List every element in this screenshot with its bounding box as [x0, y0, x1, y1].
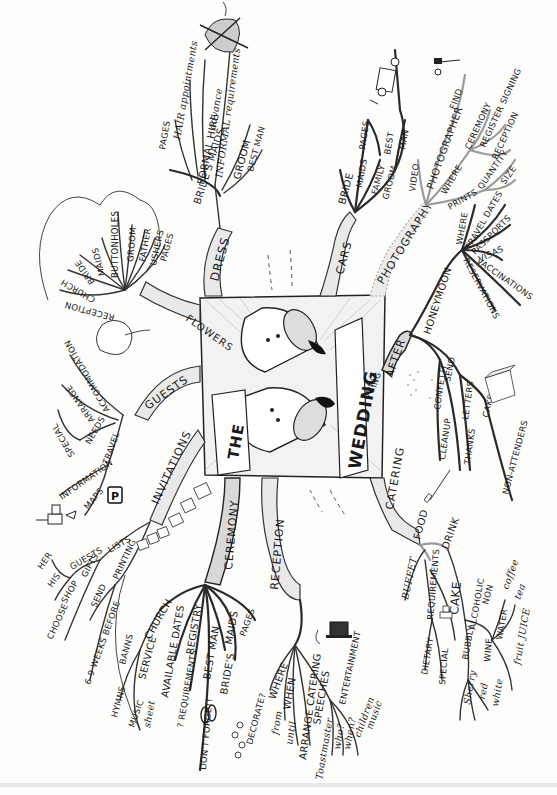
church-icon — [36, 505, 76, 524]
tulip-icon — [96, 320, 150, 354]
cars-bride: BRIDE — [336, 171, 355, 205]
cars-maids: MAIDS — [354, 158, 369, 188]
catering-wine: WINE — [482, 638, 494, 663]
reception-entertainment: ENTERTAINMENT — [337, 630, 362, 706]
photography-video: VIDEO — [407, 163, 421, 193]
catering-dietary: DIETARY — [419, 636, 435, 675]
ceremony-banns: BANNS — [117, 633, 135, 666]
ceremony-dont-forget: DON'T FORGET! — [198, 698, 214, 770]
decoration-flowers-icon — [232, 722, 245, 758]
ceremony-hymns: HYMNS — [109, 685, 127, 719]
reception-decorate: DECORATE? — [244, 692, 267, 746]
guests-information: INFORMATION — [57, 457, 114, 501]
cars-man: MAN — [397, 128, 410, 150]
after-honeymoon: HONEYMOON — [421, 266, 453, 336]
branch-label-catering: CATERING — [383, 446, 407, 511]
vintage-car-icon — [370, 58, 399, 104]
central-image: THE WEDDING DONG ING — [200, 295, 385, 478]
flowers-buttonholes: BUTTONHOLES — [110, 211, 120, 278]
invitations-shop: SHOP — [59, 579, 80, 605]
catering-sherry: Sherry — [461, 669, 478, 705]
catering-special: SPECIAL — [437, 647, 450, 685]
catering-tea: tea — [512, 582, 528, 601]
catering-buffet: BUFFET — [399, 555, 419, 601]
invitations-her: HER — [35, 550, 54, 571]
branch-guests: GUESTS ACCOMMODATION ARRANGE NEEDS SPECI… — [36, 338, 200, 524]
camera-photographer-icon — [434, 58, 460, 75]
ceremony-maids: MAIDS — [223, 610, 240, 645]
ceremony-pages: PAGES — [237, 607, 256, 638]
ceremony-registry: REGISTRY — [184, 602, 204, 655]
after-cleanup: CLEANUP — [437, 418, 453, 461]
ceremony-service: SERVICE — [136, 635, 158, 681]
cars-best: BEST — [382, 130, 396, 155]
reception-from: from — [269, 710, 284, 737]
photography-photographer: PHOTOGRAPHER — [425, 105, 465, 190]
catering-red: red — [476, 682, 490, 701]
ceremony-best-man: BEST MAN — [201, 625, 221, 680]
branch-label-photography: PHOTOGRAPHY — [375, 199, 436, 286]
branch-reception: RECEPTION WHERE DECORATE? WHEN from unti… — [232, 478, 384, 780]
catering-cake: CAKE — [447, 581, 464, 615]
catering-fruit-juice: fruit JUICE — [511, 607, 532, 666]
catering-food: FOOD — [411, 508, 429, 540]
mind-map-canvas: THE WEDDING DONG ING DRESS BRIDE'S MAIDS… — [0, 0, 557, 795]
invitations-choose: CHOOSE — [45, 602, 70, 641]
top-hat-icon — [316, 622, 352, 644]
svg-text:P: P — [111, 490, 119, 503]
confetti-icon — [407, 371, 437, 399]
dress-pages: PAGES — [157, 120, 172, 150]
catering-bubbly: BUBBLY — [460, 624, 476, 660]
photography-find: FIND — [447, 87, 464, 111]
invitations-his: HIS — [45, 571, 62, 589]
ceremony-requirements: ? REQUIREMENTS — [175, 649, 199, 729]
dress-hair-appointments: HAIR appointments — [171, 40, 199, 142]
guests-special: SPECIAL — [50, 422, 77, 459]
after-non-attenders: NON-ATTENDERS — [500, 419, 529, 496]
reception-until: until — [283, 720, 298, 745]
flowers-groom: GROOM — [125, 227, 138, 262]
photography-size: SIZE — [498, 164, 518, 186]
after-thanks: THANKS — [462, 428, 477, 467]
flowers-maids: MAIDS — [90, 246, 107, 277]
broom-icon — [424, 470, 450, 502]
after-confetti: CONFETTI — [432, 365, 448, 410]
branch-dress: DRESS BRIDE'S MAIDS PAGES HAIR appointme… — [157, 2, 267, 296]
catering-white: white — [489, 678, 505, 708]
ceremony-brides: BRIDE'S — [218, 652, 236, 695]
guests-maps: MAPS — [82, 486, 106, 511]
catering-drink: DRINK — [440, 516, 462, 551]
parking-sign-icon: P — [108, 487, 122, 503]
cars-pages: PAGES — [357, 120, 371, 150]
crossed-fan-icon — [200, 2, 248, 52]
